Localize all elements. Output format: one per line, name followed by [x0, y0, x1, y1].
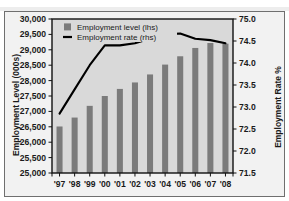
legend-label: Employment rate (rhs)	[77, 33, 156, 42]
y-axis-tick-label-right: 72.5	[239, 124, 256, 134]
y-axis-tick-label-left: 26,500	[20, 122, 47, 132]
x-axis-tick-label: '04	[159, 179, 171, 189]
y-axis-tick-label-left: 28,500	[20, 60, 47, 70]
x-axis-tick-label: '05	[174, 179, 186, 189]
y-axis-tick-label-right: 74.5	[239, 36, 256, 46]
bar	[132, 82, 138, 173]
x-axis-tick-label: '07	[205, 179, 217, 189]
x-axis-tick-label: '08	[220, 179, 232, 189]
x-axis-tick-label: '01	[114, 179, 126, 189]
bar	[222, 44, 228, 173]
figure: Employment Level (000s) Employment Rate …	[0, 0, 289, 201]
bar	[87, 106, 93, 173]
y-axis-tick-label-right: 71.5	[239, 168, 256, 178]
bar	[72, 118, 78, 173]
bar	[117, 89, 123, 173]
bar	[102, 96, 108, 173]
y-axis-tick-label-right: 75.0	[239, 14, 256, 24]
bar	[162, 65, 168, 173]
legend: Employment level (lhs)Employment rate (r…	[59, 20, 177, 42]
x-axis-tick-label: '06	[189, 179, 201, 189]
bar	[207, 43, 213, 173]
x-axis-tick-label: '97	[54, 179, 66, 189]
legend-label: Employment level (lhs)	[77, 23, 158, 32]
chart-canvas: 25,00025,50026,00026,50027,00027,50028,0…	[5, 12, 284, 196]
bar	[177, 56, 183, 173]
y-axis-tick-label-right: 72.0	[239, 146, 256, 156]
y-axis-tick-label-left: 28,000	[20, 76, 47, 86]
bar	[192, 48, 198, 173]
y-axis-tick-label-left: 29,000	[20, 45, 47, 55]
y-axis-tick-label-left: 30,000	[20, 14, 47, 24]
y-axis-tick-label-left: 25,000	[20, 168, 47, 178]
x-axis-tick-label: '02	[129, 179, 141, 189]
x-axis-tick-label: '99	[84, 179, 96, 189]
y-axis-tick-label-right: 74.0	[239, 58, 256, 68]
legend-marker-bar	[64, 23, 71, 30]
x-axis-tick-label: '03	[144, 179, 156, 189]
y-axis-tick-label-left: 25,500	[20, 153, 47, 163]
y-axis-tick-label-left: 27,000	[20, 106, 47, 116]
plot-area-background	[52, 19, 233, 173]
y-axis-tick-label-left: 29,500	[20, 29, 47, 39]
x-axis-tick-label: '00	[99, 179, 111, 189]
bar	[147, 74, 153, 173]
y-axis-tick-label-left: 27,500	[20, 91, 47, 101]
x-axis-tick-label: '98	[69, 179, 81, 189]
y-axis-tick-label-right: 73.5	[239, 80, 256, 90]
y-axis-tick-label-left: 26,000	[20, 137, 47, 147]
y-axis-tick-label-right: 73.0	[239, 102, 256, 112]
chart-frame: Employment Level (000s) Employment Rate …	[4, 11, 285, 197]
bar	[57, 126, 63, 173]
